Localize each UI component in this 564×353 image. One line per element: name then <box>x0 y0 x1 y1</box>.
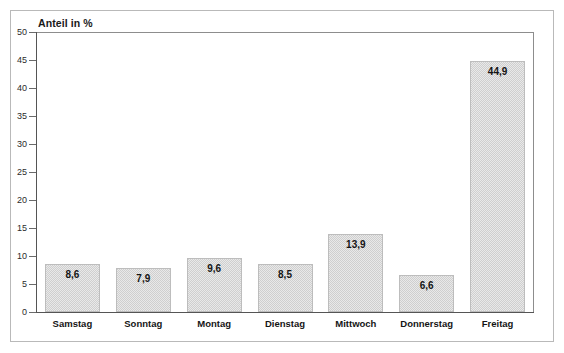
y-axis-label: 20 <box>3 195 27 205</box>
bar: 9,6 <box>187 258 242 312</box>
y-axis-label: 25 <box>3 167 27 177</box>
y-axis-tick <box>29 144 36 145</box>
y-axis-tick <box>29 312 36 313</box>
bar-value-label: 8,6 <box>46 269 99 280</box>
x-axis-label: Samstag <box>37 318 108 329</box>
bar: 44,9 <box>470 61 525 312</box>
y-axis-tick <box>29 284 36 285</box>
y-axis-tick <box>29 116 36 117</box>
x-axis-label: Donnerstag <box>391 318 462 329</box>
chart-title: Anteil in % <box>38 17 93 29</box>
x-axis-label: Freitag <box>462 318 533 329</box>
chart-page: Anteil in % 50454035302520151050 8,67,99… <box>0 0 564 353</box>
y-axis-label: 45 <box>3 55 27 65</box>
y-axis-tick <box>29 200 36 201</box>
y-axis-label: 10 <box>3 251 27 261</box>
bar-series: 8,67,99,68,513,96,644,9 <box>37 33 533 312</box>
y-axis-label: 30 <box>3 139 27 149</box>
x-axis-label: Montag <box>179 318 250 329</box>
x-axis-label: Dienstag <box>250 318 321 329</box>
y-axis-tick <box>29 88 36 89</box>
y-axis-label: 0 <box>3 307 27 317</box>
y-axis-tick <box>29 172 36 173</box>
y-axis-tick <box>29 32 36 33</box>
bar: 8,6 <box>45 264 100 312</box>
y-axis-label: 50 <box>3 27 27 37</box>
y-axis-label: 35 <box>3 111 27 121</box>
bar-value-label: 8,5 <box>259 269 312 280</box>
bar-value-label: 9,6 <box>188 263 241 274</box>
y-axis-tick <box>29 256 36 257</box>
y-axis-tick <box>29 228 36 229</box>
x-axis-line <box>36 312 534 313</box>
bar-value-label: 6,6 <box>400 280 453 291</box>
bar-value-label: 13,9 <box>329 239 382 250</box>
bar: 8,5 <box>258 264 313 312</box>
x-axis-label: Sonntag <box>108 318 179 329</box>
bar: 13,9 <box>328 234 383 312</box>
bar-value-label: 7,9 <box>117 273 170 284</box>
y-axis-label: 40 <box>3 83 27 93</box>
y-axis-tick <box>29 60 36 61</box>
bar-value-label: 44,9 <box>471 66 524 77</box>
bar: 6,6 <box>399 275 454 312</box>
bar: 7,9 <box>116 268 171 312</box>
y-axis-label: 5 <box>3 279 27 289</box>
x-axis-label: Mittwoch <box>320 318 391 329</box>
y-axis-label: 15 <box>3 223 27 233</box>
